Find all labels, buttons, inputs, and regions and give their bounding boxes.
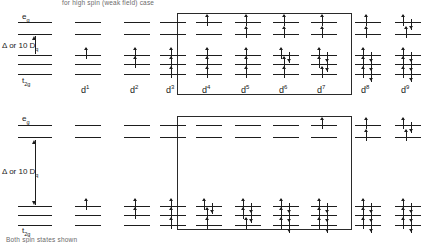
energy-level <box>355 125 381 126</box>
energy-level <box>160 137 186 138</box>
delta-arrow-bottom-shaft <box>35 140 36 205</box>
energy-level <box>160 225 186 226</box>
energy-level <box>395 22 421 23</box>
low-spin-d6-t2g-1-electron-up-head <box>279 207 283 210</box>
high-spin-d5-eg-1-electron-up-head <box>244 26 248 29</box>
high-spin-d7-eg-1-electron-up-head <box>320 26 324 29</box>
high-spin-d2-t2g-0-electron-up-head <box>133 47 137 50</box>
low-spin-d8-eg-1-electron-up-head <box>364 129 368 132</box>
high-spin-d9-t2g-2-electron-down-head <box>409 78 413 81</box>
low-spin-d9-eg-0-electron-up-head <box>401 117 405 120</box>
high-spin-d6-eg-0-electron-up-head <box>282 14 286 17</box>
axis-t2g-level-top <box>18 55 52 56</box>
low-spin-d4-t2g-1-electron-up-head <box>205 207 209 210</box>
energy-level <box>355 74 381 75</box>
energy-level <box>355 34 381 35</box>
energy-level <box>124 55 150 56</box>
axis-eg-level-bottom <box>18 137 52 138</box>
high-spin-d8-eg-1-electron-up-head <box>364 26 368 29</box>
delta-label-bottom: Δ or 10 Dq <box>2 167 38 178</box>
energy-level <box>124 22 150 23</box>
energy-level <box>160 125 186 126</box>
column-label-d8: d8 <box>361 84 369 95</box>
low-spin-d8-t2g-2-electron-down-head <box>369 229 373 232</box>
high-spin-d8-t2g-1-electron-up-head <box>361 56 365 59</box>
axis-t2g-level-top <box>18 74 52 75</box>
energy-level <box>196 206 222 207</box>
axis-eg-level-bottom <box>18 125 52 126</box>
energy-level <box>273 125 299 126</box>
energy-level <box>355 55 381 56</box>
energy-level <box>273 137 299 138</box>
energy-level <box>124 125 150 126</box>
energy-level <box>235 64 261 65</box>
high-spin-d4-t2g-2-electron-up-head <box>205 66 209 69</box>
low-spin-d3-t2g-2-electron-up-head <box>169 217 173 220</box>
energy-level <box>355 225 381 226</box>
low-spin-d7-t2g-0-electron-up-head <box>317 198 321 201</box>
high-spin-d8-eg-0-electron-up-head <box>364 14 368 17</box>
high-spin-d6-t2g-0-electron-down-head <box>287 59 291 62</box>
low-spin-d9-eg-1-electron-up-head <box>404 129 408 132</box>
energy-level <box>395 125 421 126</box>
low-spin-d7-t2g-2-electron-down-head <box>325 229 329 232</box>
energy-level <box>235 34 261 35</box>
energy-level <box>196 125 222 126</box>
energy-level <box>124 225 150 226</box>
energy-level <box>75 225 101 226</box>
energy-level <box>273 22 299 23</box>
low-spin-d3-t2g-1-electron-up-head <box>169 207 173 210</box>
high-spin-d9-eg-1-electron-up-head <box>404 26 408 29</box>
energy-level <box>75 137 101 138</box>
low-spin-d9-t2g-2-electron-down-head <box>409 229 413 232</box>
energy-level <box>75 64 101 65</box>
energy-level <box>160 34 186 35</box>
figure-caption-bottom: Both spin states shown <box>6 236 77 243</box>
column-label-d9: d9 <box>401 84 409 95</box>
energy-level <box>311 74 337 75</box>
high-spin-d9-eg-0-electron-up-head <box>401 14 405 17</box>
energy-level <box>273 34 299 35</box>
energy-level <box>196 55 222 56</box>
eg-label-bottom: eg <box>22 114 30 125</box>
column-label-d6: d6 <box>279 84 287 95</box>
energy-level <box>75 125 101 126</box>
delta-arrow-top-head-top <box>32 36 36 40</box>
low-spin-d8-t2g-2-electron-up-head <box>361 217 365 220</box>
delta-label-top: Δ or 10 Dq <box>2 41 38 52</box>
energy-level <box>160 22 186 23</box>
axis-t2g-level-bottom <box>18 206 52 207</box>
low-spin-d5-t2g-2-electron-up-head <box>244 217 248 220</box>
low-spin-d9-t2g-1-electron-up-head <box>401 207 405 210</box>
energy-level <box>311 64 337 65</box>
energy-level <box>355 215 381 216</box>
high-spin-d5-t2g-2-electron-up-head <box>244 66 248 69</box>
high-spin-highlight-box <box>177 13 352 95</box>
energy-level <box>273 215 299 216</box>
high-spin-d6-t2g-0-electron-up-head <box>279 47 283 50</box>
column-label-d2: d2 <box>130 84 138 95</box>
column-label-d3: d3 <box>166 84 174 95</box>
high-spin-d9-t2g-1-electron-up-head <box>401 56 405 59</box>
high-spin-d8-t2g-2-electron-up-head <box>361 66 365 69</box>
energy-level <box>355 137 381 138</box>
energy-level <box>196 64 222 65</box>
high-spin-d9-eg-0-electron-down-head <box>409 26 413 29</box>
low-spin-d2-t2g-0-electron-up-head <box>133 198 137 201</box>
energy-level <box>75 22 101 23</box>
high-spin-d3-t2g-2-electron-up-head <box>169 66 173 69</box>
energy-level <box>355 22 381 23</box>
energy-level <box>160 64 186 65</box>
high-spin-d6-t2g-2-electron-up-head <box>282 66 286 69</box>
energy-level <box>124 215 150 216</box>
energy-level <box>235 22 261 23</box>
energy-level <box>124 64 150 65</box>
low-spin-d9-eg-0-electron-down-head <box>409 129 413 132</box>
energy-level <box>395 215 421 216</box>
energy-level <box>160 206 186 207</box>
energy-level <box>75 55 101 56</box>
axis-eg-level-top <box>18 22 52 23</box>
high-spin-d7-eg-0-electron-up-head <box>320 14 324 17</box>
low-spin-d8-t2g-1-electron-up-head <box>361 207 365 210</box>
energy-level <box>395 137 421 138</box>
